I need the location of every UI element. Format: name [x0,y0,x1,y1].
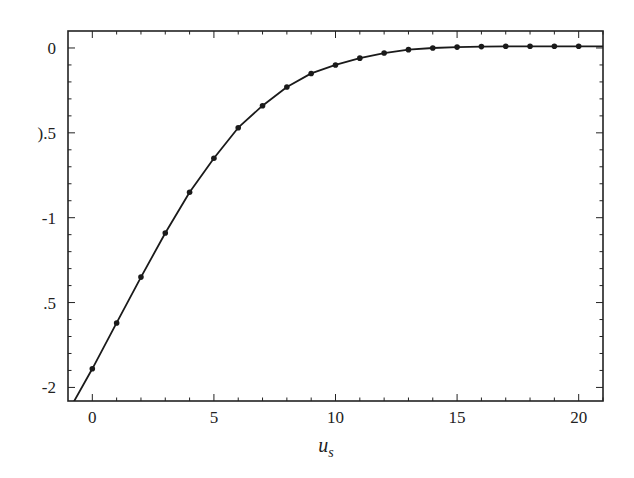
data-point [479,44,485,50]
plot-border [68,31,603,401]
data-point [260,103,266,109]
y-tick-label: .5 [43,294,56,313]
x-tick-label: 15 [449,408,466,427]
plot-frame [68,31,603,401]
y-tick-label: -2 [42,378,56,397]
data-series [70,43,603,407]
data-point [381,50,387,56]
data-point [552,43,558,49]
data-point [284,84,290,90]
data-point [357,55,363,61]
x-tick-labels: 05101520 [88,408,587,427]
data-point [90,366,96,372]
y-tick-labels: 0).5-1.5-2 [38,39,56,397]
data-point [503,43,509,49]
x-tick-label: 10 [327,408,344,427]
data-point [138,274,144,280]
data-point [333,62,339,68]
y-tick-label: ).5 [38,124,56,143]
x-axis-title: us [318,434,334,460]
data-point [187,189,193,195]
data-point [308,71,314,77]
x-tick-label: 0 [88,408,97,427]
data-point [576,43,582,49]
x-tick-label: 20 [570,408,587,427]
data-point [235,125,241,131]
series-line [70,46,603,408]
line-chart: 05101520 0).5-1.5-2 us [0,0,634,478]
axis-ticks [68,31,603,401]
data-point [211,155,217,161]
data-point [114,320,120,326]
data-point [430,45,436,51]
x-tick-label: 5 [210,408,219,427]
y-tick-label: 0 [48,39,57,58]
data-point [454,44,460,50]
data-point [162,230,168,236]
data-point [406,47,412,53]
y-tick-label: -1 [42,209,56,228]
data-point [527,43,533,49]
